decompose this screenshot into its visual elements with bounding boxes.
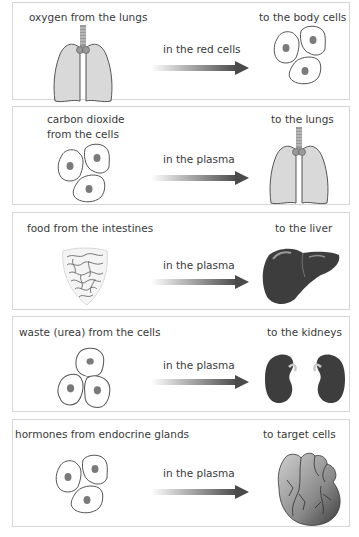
body-cells-icon <box>53 454 113 518</box>
source-label-line2: from the cells <box>47 127 119 141</box>
arrow-icon <box>151 61 249 75</box>
intestines-icon <box>59 247 111 307</box>
lungs-icon <box>53 25 115 105</box>
destination-label: to target cells <box>263 427 336 441</box>
destination-label: to the lungs <box>271 112 334 126</box>
carrier-label: in the plasma <box>163 259 235 271</box>
carrier-label: in the plasma <box>163 359 235 371</box>
destination-label: to the body cells <box>259 10 346 24</box>
body-cells-icon <box>271 25 331 89</box>
row-oxygen: oxygen from the lungs to the body cells … <box>12 2 350 100</box>
carrier-label: in the red cells <box>163 43 241 55</box>
carrier-label: in the plasma <box>163 467 235 479</box>
row-hormones: hormones from endocrine glands to target… <box>12 419 350 527</box>
lungs-icon <box>269 127 331 207</box>
arrow-icon <box>151 485 249 499</box>
destination-label: to the liver <box>275 221 332 235</box>
row-carbon-dioxide: carbon dioxide from the cells to the lun… <box>12 106 350 205</box>
arrow-icon <box>151 171 249 185</box>
source-label: food from the intestines <box>27 221 153 235</box>
arrow-icon <box>151 375 249 389</box>
source-label: hormones from endocrine glands <box>15 427 189 441</box>
source-label-line1: carbon dioxide <box>47 112 125 126</box>
carrier-label: in the plasma <box>163 153 235 165</box>
arrow-icon <box>151 275 249 289</box>
row-food: food from the intestines to the liver in… <box>12 212 350 310</box>
body-cells-icon <box>55 347 115 411</box>
destination-label: to the kidneys <box>267 325 342 339</box>
body-cells-icon <box>55 143 115 207</box>
kidneys-icon <box>265 353 345 405</box>
source-label: waste (urea) from the cells <box>19 325 160 339</box>
row-waste-urea: waste (urea) from the cells to the kidne… <box>12 316 350 412</box>
liver-icon <box>259 245 343 307</box>
heart-icon <box>275 450 345 528</box>
source-label: oxygen from the lungs <box>29 10 147 24</box>
